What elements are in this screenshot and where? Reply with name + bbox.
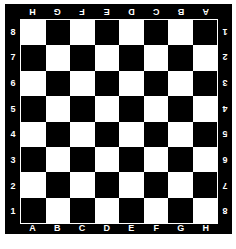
square-a6[interactable] bbox=[21, 71, 46, 96]
square-h2[interactable] bbox=[193, 172, 218, 197]
square-e7[interactable] bbox=[119, 45, 144, 70]
square-h6[interactable] bbox=[193, 71, 218, 96]
rank-label: 2 bbox=[6, 173, 20, 199]
square-f1[interactable] bbox=[144, 198, 169, 223]
rank-labels-right: 8 7 6 5 4 3 2 1 bbox=[218, 19, 232, 224]
chessboard-grid bbox=[21, 20, 217, 223]
file-label: G bbox=[169, 222, 194, 234]
square-b3[interactable] bbox=[46, 147, 71, 172]
square-h1[interactable] bbox=[193, 198, 218, 223]
square-d5[interactable] bbox=[95, 96, 120, 121]
square-a3[interactable] bbox=[21, 147, 46, 172]
square-f4[interactable] bbox=[144, 122, 169, 147]
square-b6[interactable] bbox=[46, 71, 71, 96]
rank-label: 8 bbox=[6, 19, 20, 45]
square-f2[interactable] bbox=[144, 172, 169, 197]
file-labels-bottom: A B C D E F G H bbox=[20, 222, 218, 234]
square-g7[interactable] bbox=[168, 45, 193, 70]
rank-labels-left: 8 7 6 5 4 3 2 1 bbox=[6, 19, 20, 224]
square-b8[interactable] bbox=[46, 20, 71, 45]
square-h8[interactable] bbox=[193, 20, 218, 45]
file-label: A bbox=[20, 222, 45, 234]
square-h3[interactable] bbox=[193, 147, 218, 172]
square-a4[interactable] bbox=[21, 122, 46, 147]
square-c5[interactable] bbox=[70, 96, 95, 121]
square-h4[interactable] bbox=[193, 122, 218, 147]
square-h7[interactable] bbox=[193, 45, 218, 70]
square-g2[interactable] bbox=[168, 172, 193, 197]
rank-label: 6 bbox=[6, 70, 20, 96]
board-border bbox=[20, 19, 218, 224]
square-e8[interactable] bbox=[119, 20, 144, 45]
rank-label: 6 bbox=[218, 147, 232, 173]
square-g6[interactable] bbox=[168, 71, 193, 96]
square-c4[interactable] bbox=[70, 122, 95, 147]
square-b1[interactable] bbox=[46, 198, 71, 223]
square-e5[interactable] bbox=[119, 96, 144, 121]
rank-label: 4 bbox=[218, 96, 232, 122]
rank-label: 1 bbox=[6, 198, 20, 224]
file-labels-top: A B C D E F G H bbox=[20, 6, 218, 18]
square-c1[interactable] bbox=[70, 198, 95, 223]
square-f6[interactable] bbox=[144, 71, 169, 96]
square-g3[interactable] bbox=[168, 147, 193, 172]
file-label: C bbox=[144, 6, 169, 18]
file-label: B bbox=[169, 6, 194, 18]
square-g8[interactable] bbox=[168, 20, 193, 45]
rank-label: 3 bbox=[218, 70, 232, 96]
file-label: C bbox=[70, 222, 95, 234]
square-d7[interactable] bbox=[95, 45, 120, 70]
square-b5[interactable] bbox=[46, 96, 71, 121]
rank-label: 7 bbox=[6, 45, 20, 71]
square-a1[interactable] bbox=[21, 198, 46, 223]
square-g5[interactable] bbox=[168, 96, 193, 121]
square-e3[interactable] bbox=[119, 147, 144, 172]
square-d2[interactable] bbox=[95, 172, 120, 197]
square-e6[interactable] bbox=[119, 71, 144, 96]
square-f3[interactable] bbox=[144, 147, 169, 172]
rank-label: 8 bbox=[218, 198, 232, 224]
rank-label: 7 bbox=[218, 173, 232, 199]
file-label: F bbox=[70, 6, 95, 18]
file-label: G bbox=[45, 6, 70, 18]
square-h5[interactable] bbox=[193, 96, 218, 121]
square-b2[interactable] bbox=[46, 172, 71, 197]
square-c7[interactable] bbox=[70, 45, 95, 70]
square-f5[interactable] bbox=[144, 96, 169, 121]
file-label: A bbox=[193, 6, 218, 18]
file-label: D bbox=[94, 222, 119, 234]
rank-label: 1 bbox=[218, 19, 232, 45]
square-g1[interactable] bbox=[168, 198, 193, 223]
file-label: B bbox=[45, 222, 70, 234]
rank-label: 2 bbox=[218, 45, 232, 71]
file-label: D bbox=[119, 6, 144, 18]
square-d8[interactable] bbox=[95, 20, 120, 45]
square-d6[interactable] bbox=[95, 71, 120, 96]
square-c2[interactable] bbox=[70, 172, 95, 197]
square-c6[interactable] bbox=[70, 71, 95, 96]
square-b4[interactable] bbox=[46, 122, 71, 147]
square-d3[interactable] bbox=[95, 147, 120, 172]
square-c3[interactable] bbox=[70, 147, 95, 172]
square-b7[interactable] bbox=[46, 45, 71, 70]
square-f8[interactable] bbox=[144, 20, 169, 45]
square-a7[interactable] bbox=[21, 45, 46, 70]
square-g4[interactable] bbox=[168, 122, 193, 147]
square-a8[interactable] bbox=[21, 20, 46, 45]
square-e4[interactable] bbox=[119, 122, 144, 147]
rank-label: 3 bbox=[6, 147, 20, 173]
rank-label: 5 bbox=[6, 96, 20, 122]
file-label: H bbox=[20, 6, 45, 18]
square-d4[interactable] bbox=[95, 122, 120, 147]
square-e1[interactable] bbox=[119, 198, 144, 223]
file-label: E bbox=[119, 222, 144, 234]
square-e2[interactable] bbox=[119, 172, 144, 197]
file-label: F bbox=[144, 222, 169, 234]
square-a5[interactable] bbox=[21, 96, 46, 121]
rank-label: 5 bbox=[218, 122, 232, 148]
square-d1[interactable] bbox=[95, 198, 120, 223]
square-f7[interactable] bbox=[144, 45, 169, 70]
square-a2[interactable] bbox=[21, 172, 46, 197]
square-c8[interactable] bbox=[70, 20, 95, 45]
chessboard-frame: A B C D E F G H 8 7 6 5 4 3 2 1 8 7 6 5 … bbox=[5, 4, 232, 234]
